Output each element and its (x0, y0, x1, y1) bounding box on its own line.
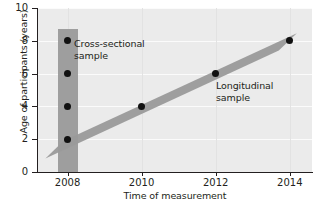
data-point (64, 136, 71, 143)
y-tick-8 (32, 41, 37, 42)
x-tick-label-2008: 2008 (38, 177, 98, 188)
data-point (64, 103, 71, 110)
y-tick-2 (32, 139, 37, 140)
y-tick-6 (32, 74, 37, 75)
x-tick-label-2014: 2014 (260, 177, 318, 188)
y-tick-4 (32, 106, 37, 107)
y-tick-0 (32, 172, 37, 173)
y-tick-label-2: 2 (0, 133, 28, 144)
x-axis-title: Time of measurement (36, 190, 314, 201)
y-tick-label-6: 6 (0, 68, 28, 79)
y-tick-10 (32, 8, 37, 9)
y-tick-label-8: 8 (0, 35, 28, 46)
y-axis-line (37, 8, 38, 172)
y-tick-label-10: 10 (0, 2, 28, 13)
x-tick-2012 (216, 172, 217, 176)
y-tick-label-0: 0 (0, 166, 28, 177)
data-point (138, 103, 145, 110)
longitudinal-annotation: Longitudinal sample (216, 80, 273, 103)
chart-figure: Age of participants (years) Cross-sectio… (0, 0, 318, 208)
x-tick-label-2012: 2012 (186, 177, 246, 188)
x-axis-line (37, 172, 313, 173)
y-tick-label-4: 4 (0, 100, 28, 111)
x-tick-2008 (68, 172, 69, 176)
cross-sectional-annotation: Cross-sectional sample (74, 38, 145, 61)
x-tick-label-2010: 2010 (112, 177, 172, 188)
x-tick-2010 (142, 172, 143, 176)
x-tick-2014 (290, 172, 291, 176)
